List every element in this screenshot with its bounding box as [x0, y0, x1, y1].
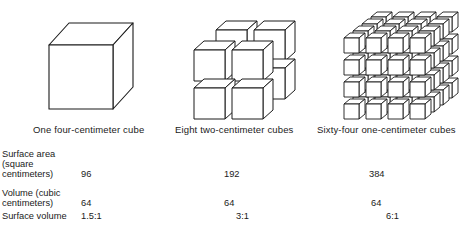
cube-illustrations: [0, 0, 469, 130]
row-label-surface-volume: Surface volume: [2, 211, 67, 221]
surface-area-sixty-four-cubes: 384: [369, 169, 385, 179]
volume-eight-cubes: 64: [224, 198, 234, 208]
row-label-volume: Volume (cubic centimeters): [2, 188, 60, 208]
surface-area-one-cube: 96: [81, 169, 91, 179]
sixty-four-one-centimeter-cubes: [344, 12, 458, 119]
row-label-surface-area: Surface area (square centimeters): [2, 149, 55, 179]
four-centimeter-cube: [49, 23, 133, 109]
eight-two-centimeter-cubes: [194, 21, 295, 119]
volume-sixty-four-cubes: 64: [371, 198, 381, 208]
caption-sixty-four-cubes: Sixty-four one-centimeter cubes: [317, 124, 456, 135]
caption-one-cube: One four-centimeter cube: [33, 124, 144, 135]
ratio-sixty-four-cubes: 6:1: [386, 211, 399, 221]
caption-eight-cubes: Eight two-centimeter cubes: [175, 124, 293, 135]
ratio-one-cube: 1.5:1: [81, 211, 102, 221]
surface-area-eight-cubes: 192: [224, 169, 240, 179]
volume-one-cube: 64: [81, 198, 91, 208]
ratio-eight-cubes: 3:1: [236, 211, 249, 221]
